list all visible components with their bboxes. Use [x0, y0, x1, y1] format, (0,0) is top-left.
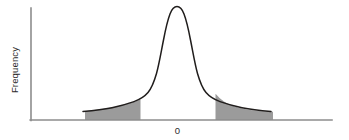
chart-figure: Frequency 0 [0, 0, 349, 140]
bell-curve-path [83, 7, 271, 112]
y-axis-label: Frequency [9, 47, 20, 93]
right-tail-shaded-region [216, 94, 274, 120]
x-axis-tick-label-zero: 0 [175, 125, 180, 136]
plot-canvas: Frequency 0 [0, 0, 349, 140]
